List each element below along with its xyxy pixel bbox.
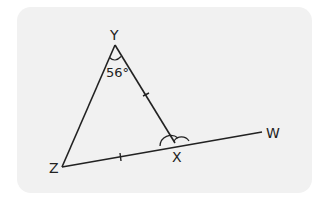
point-label-w: W xyxy=(266,125,280,141)
side-yz xyxy=(62,45,115,167)
point-label-z: Z xyxy=(49,160,59,176)
line-zw xyxy=(62,132,262,167)
point-label-y: Y xyxy=(109,27,119,43)
side-yx xyxy=(115,45,175,143)
angle-arc-y xyxy=(110,57,122,61)
angle-arc-x-right xyxy=(174,137,189,141)
angle-label-y: 56° xyxy=(106,65,129,80)
angle-arc-x-left xyxy=(160,135,178,146)
triangle-diagram: Y Z X W 56° xyxy=(0,0,324,203)
tick-mark-zx xyxy=(120,153,121,161)
point-label-x: X xyxy=(172,149,182,165)
